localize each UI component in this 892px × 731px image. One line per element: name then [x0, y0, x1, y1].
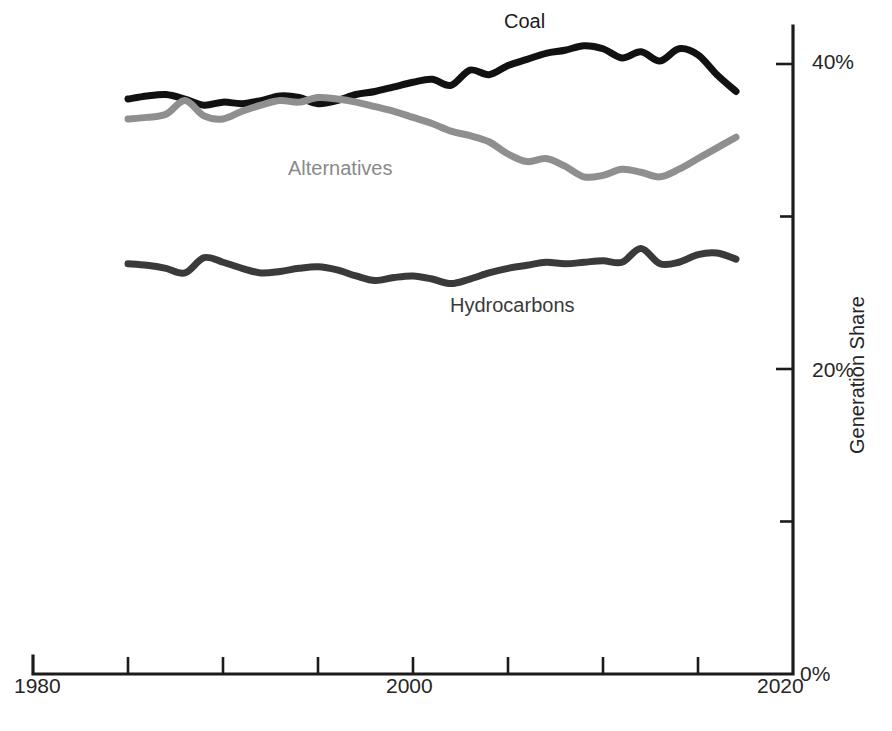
series-label-hydrocarbons: Hydrocarbons [450, 294, 575, 317]
chart-container: 40% 20% 0% 1980 2000 2020 Generation Sha… [0, 0, 892, 731]
cropped-caption-strip [0, 722, 892, 731]
series-label-coal: Coal [504, 10, 545, 33]
series-label-alternatives: Alternatives [288, 157, 393, 180]
chart-series-group [128, 46, 736, 284]
axis-ticks [128, 64, 793, 674]
x-tick-label-1980: 1980 [14, 674, 61, 698]
axis-lines [33, 26, 793, 674]
y-axis-title: Generation Share [846, 255, 869, 495]
x-tick-label-2020: 2020 [757, 674, 804, 698]
x-tick-label-2000: 2000 [386, 674, 433, 698]
series-line-alternatives [128, 97, 736, 177]
y-tick-label-0: 0% [800, 662, 830, 686]
series-line-hydrocarbons [128, 249, 736, 284]
chart-plot-area [0, 0, 892, 731]
series-line-coal [128, 46, 736, 106]
y-tick-label-40: 40% [812, 50, 854, 74]
chart-axes [33, 26, 793, 674]
